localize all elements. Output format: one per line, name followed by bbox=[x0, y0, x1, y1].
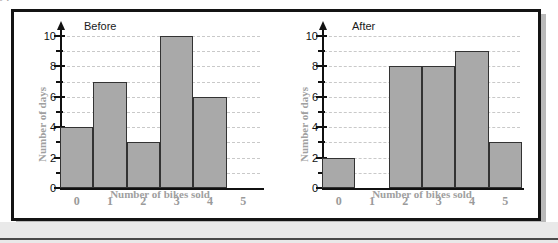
y-axis-tick-label: 4 bbox=[312, 122, 318, 133]
y-axis-tick-label: 4 bbox=[50, 122, 56, 133]
top-text-fragment: y p bbox=[0, 0, 11, 1]
chart-before: Before Number of days 0246810012345 Numb… bbox=[22, 12, 280, 218]
x-axis-tick-label: 0 bbox=[74, 194, 80, 209]
charts-container: Before Number of days 0246810012345 Numb… bbox=[14, 12, 538, 218]
y-axis-tick-label: 6 bbox=[312, 91, 318, 102]
page-bottom-rule bbox=[0, 238, 558, 240]
y-axis-tick bbox=[56, 81, 63, 83]
chart-after: After Number of days 0246810012345 Numbe… bbox=[286, 12, 538, 218]
x-axis-tick-label: 5 bbox=[240, 194, 246, 209]
bar bbox=[127, 142, 160, 188]
gridline bbox=[324, 51, 520, 52]
y-axis-tick-label: 10 bbox=[306, 31, 318, 42]
y-axis-tick bbox=[318, 81, 325, 83]
chart-title-after: After bbox=[352, 20, 375, 32]
bar bbox=[60, 127, 93, 188]
y-axis-tick-label: 2 bbox=[50, 152, 56, 163]
plot-area-after: 0246810012345 bbox=[322, 36, 522, 188]
bar bbox=[93, 82, 126, 188]
chart-title-before: Before bbox=[84, 20, 116, 32]
y-axis-tick bbox=[318, 111, 325, 113]
y-axis-arrow-before bbox=[57, 21, 65, 30]
bar bbox=[322, 158, 355, 188]
y-axis-tick-label: 0 bbox=[312, 183, 318, 194]
y-axis-tick-label: 6 bbox=[50, 91, 56, 102]
bar bbox=[455, 51, 488, 188]
figure-page: y p Before Number of days 0246810012345 … bbox=[0, 0, 558, 243]
y-axis-arrow-after bbox=[319, 21, 327, 30]
y-axis-tick bbox=[56, 111, 63, 113]
x-axis-tick-label: 0 bbox=[336, 194, 342, 209]
x-axis-tick-label: 5 bbox=[502, 194, 508, 209]
y-axis-tick-label: 8 bbox=[312, 61, 318, 72]
figure-frame: Before Number of days 0246810012345 Numb… bbox=[11, 9, 541, 221]
x-axis-title-before: Number of bikes sold bbox=[110, 188, 210, 200]
y-axis-title-before: Number of days bbox=[36, 87, 48, 162]
y-axis-tick bbox=[318, 50, 325, 52]
x-axis-title-after: Number of bikes sold bbox=[372, 188, 472, 200]
y-axis-tick bbox=[56, 50, 63, 52]
top-text-bleed: y p bbox=[0, 0, 558, 6]
plot-area-before: 0246810012345 bbox=[60, 36, 260, 188]
y-axis-tick-label: 2 bbox=[312, 152, 318, 163]
bar bbox=[389, 66, 422, 188]
y-axis-tick-label: 0 bbox=[50, 183, 56, 194]
y-axis-tick-label: 10 bbox=[44, 31, 56, 42]
gridline bbox=[324, 36, 520, 37]
bar bbox=[160, 36, 193, 188]
y-axis-tick bbox=[318, 141, 325, 143]
y-axis-tick-label: 8 bbox=[50, 61, 56, 72]
bar bbox=[422, 66, 455, 188]
bar bbox=[489, 142, 522, 188]
y-axis-title-after: Number of days bbox=[298, 87, 310, 162]
bar bbox=[193, 97, 226, 188]
